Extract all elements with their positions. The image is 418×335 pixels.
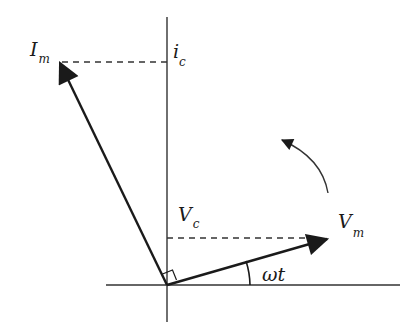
angle-label: ωt [262,263,285,285]
rotation-direction-arrow [282,140,328,193]
voltage-phasor-label: Vm [338,210,364,240]
angle-arc [246,261,250,285]
current-projection-label: ic [173,40,186,69]
voltage-projection-label: Vc [178,203,200,231]
phasor-diagram: Im ic Vc Vm ωt [0,0,418,335]
current-phasor-label: Im [29,38,50,66]
current-phasor-arrow [60,63,167,285]
